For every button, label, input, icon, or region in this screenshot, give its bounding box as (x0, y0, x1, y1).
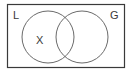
set-l-label: L (13, 9, 19, 21)
element-x-label: X (36, 34, 44, 46)
set-g-label: G (110, 9, 119, 21)
venn-diagram: L G X (0, 0, 129, 72)
set-l-circle (22, 11, 74, 63)
set-g-circle (56, 11, 108, 63)
